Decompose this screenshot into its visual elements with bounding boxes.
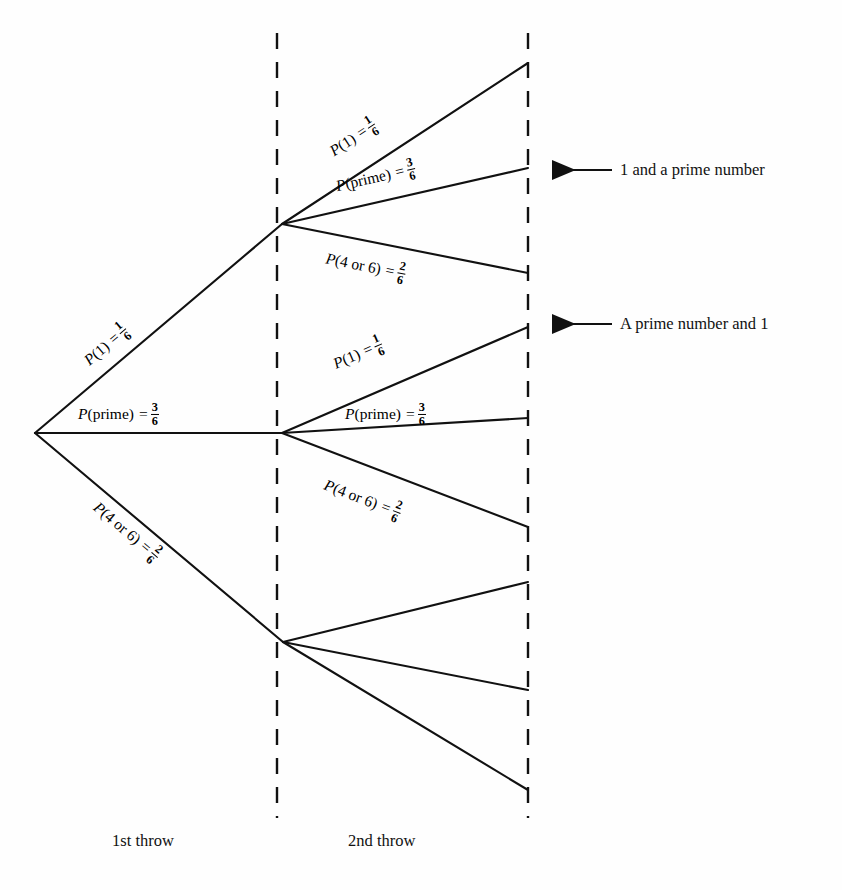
branch-1-four-or-six xyxy=(35,433,283,642)
branch-label-2-prime-prime-event: (prime) xyxy=(354,405,400,422)
branches-level-1 xyxy=(35,224,283,642)
branch-2-foursix-four-or-six xyxy=(283,642,528,790)
tree-diagram-figure: P(1)=16 P(prime)=36 P(4 or 6)=26 P(1)=16… xyxy=(0,0,842,890)
branch-2-foursix-prime xyxy=(283,642,528,690)
branch-2-prime-four-or-six xyxy=(282,433,528,527)
branch-label-1-prime: P(prime)=36 xyxy=(78,401,159,427)
equals-sign: = xyxy=(401,405,417,422)
branch-2-one-one xyxy=(282,63,528,224)
branch-label-1-prime-event: (prime) xyxy=(87,405,133,422)
outcome-label-prime-and-one: A prime number and 1 xyxy=(620,314,768,334)
branch-label-2-one-four-or-six-event: (4 or 6) xyxy=(334,251,383,277)
stage-label-2nd-throw: 2nd throw xyxy=(348,831,415,851)
callout-arrows xyxy=(554,170,612,324)
equals-sign: = xyxy=(134,405,150,422)
branch-label-1-prime-fraction: 36 xyxy=(151,401,159,427)
branch-label-2-one-prime-event: (prime) xyxy=(343,165,392,192)
branch-label-2-prime-prime: P(prime)=36 xyxy=(345,401,426,427)
tree-canvas xyxy=(0,0,842,890)
stage-label-1st-throw: 1st throw xyxy=(112,831,174,851)
branch-2-foursix-one xyxy=(283,582,528,642)
outcome-label-one-and-prime: 1 and a prime number xyxy=(620,160,765,180)
branches-level-2-from-four-or-six xyxy=(283,582,528,790)
branch-label-2-prime-prime-fraction: 36 xyxy=(418,401,426,427)
